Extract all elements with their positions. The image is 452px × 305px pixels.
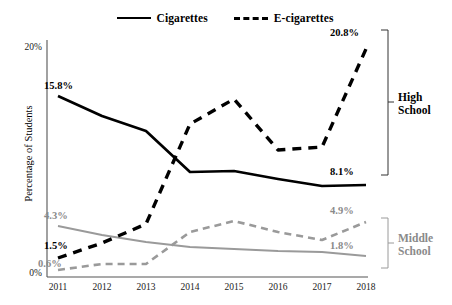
- x-tick-label-2018: 2018: [346, 282, 386, 292]
- x-tick-label-2011: 2011: [38, 282, 78, 292]
- group-label-middle-school-line2: School: [398, 245, 433, 258]
- data-label-hs-cig-2018: 8.1%: [330, 166, 354, 177]
- data-label-ms-cig-2011: 4.3%: [44, 210, 68, 221]
- group-label-high-school: High School: [398, 91, 431, 117]
- series-line-ms-ecigarettes: [58, 221, 366, 270]
- x-tick-label-2013: 2013: [126, 282, 166, 292]
- data-label-ms-cig-2018: 1.8%: [330, 240, 354, 251]
- plot-area: [0, 0, 452, 305]
- data-label-hs-ecig-2011: 1.5%: [44, 240, 68, 251]
- x-tick-label-2017: 2017: [302, 282, 342, 292]
- group-label-high-school-line2: School: [398, 104, 431, 117]
- line-chart: Cigarettes E-cigarettes Percentage of St…: [0, 0, 452, 305]
- series-line-hs-ecigarettes: [58, 49, 366, 258]
- x-tick-label-2016: 2016: [258, 282, 298, 292]
- x-tick-label-2014: 2014: [170, 282, 210, 292]
- data-label-hs-ecig-2018: 20.8%: [330, 27, 359, 38]
- data-label-hs-cig-2011: 15.8%: [44, 80, 73, 91]
- data-label-ms-ecig-2011: 0.6%: [38, 258, 62, 269]
- data-label-ms-ecig-2018: 4.9%: [330, 205, 354, 216]
- series-line-hs-cigarettes: [58, 96, 366, 186]
- x-tick-label-2012: 2012: [82, 282, 122, 292]
- group-label-middle-school: Middle School: [398, 232, 433, 258]
- bracket-high-school: [381, 30, 388, 175]
- group-label-middle-school-line1: Middle: [398, 232, 433, 245]
- x-tick-label-2015: 2015: [214, 282, 254, 292]
- bracket-middle-school: [381, 218, 388, 268]
- group-label-high-school-line1: High: [398, 91, 431, 104]
